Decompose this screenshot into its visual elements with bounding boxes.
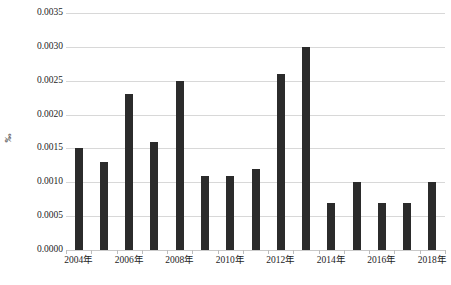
bar [277, 74, 285, 250]
y-axis-tick-labels: 0.00000.00050.00100.00150.00200.00250.00… [14, 0, 66, 285]
x-axis-tick [117, 250, 118, 254]
bar [201, 176, 209, 250]
x-axis-tick [344, 250, 345, 254]
bar [150, 142, 158, 250]
bar [327, 203, 335, 250]
bar [428, 182, 436, 250]
bars-layer [66, 13, 445, 250]
x-axis-tick [445, 250, 446, 254]
x-axis-tick [319, 250, 320, 254]
x-axis-tick [420, 250, 421, 254]
bar [125, 94, 133, 250]
bar [226, 176, 234, 250]
bar [403, 203, 411, 250]
y-axis-tick-label: 0.0010 [37, 178, 63, 188]
x-axis-tick [218, 250, 219, 254]
x-axis-tick [91, 250, 92, 254]
x-axis-tick-label: 2014年 [317, 256, 346, 266]
bar [100, 162, 108, 250]
y-axis-tick-label: 0.0005 [37, 211, 63, 221]
bar [252, 169, 260, 250]
bar [75, 148, 83, 250]
caption-remnant [96, 273, 366, 283]
bar [378, 203, 386, 250]
x-axis-tick [243, 250, 244, 254]
y-axis-tick-label: 0.0025 [37, 76, 63, 86]
x-axis-tick-label: 2006年 [115, 256, 144, 266]
x-axis-tick [394, 250, 395, 254]
y-axis-tick-label: 0.0000 [37, 245, 63, 255]
bar [176, 81, 184, 250]
x-axis-tick-label: 2018年 [418, 256, 447, 266]
bar [353, 182, 361, 250]
x-axis-tick [293, 250, 294, 254]
x-axis-tick [66, 250, 67, 254]
y-axis-tick-label: 0.0020 [37, 110, 63, 120]
x-axis-tick-label: 2016年 [367, 256, 396, 266]
bar-chart-figure: ‰ 0.00000.00050.00100.00150.00200.00250.… [0, 0, 451, 285]
x-axis-tick [369, 250, 370, 254]
x-axis-tick-label: 2010年 [216, 256, 245, 266]
x-axis-tick [192, 250, 193, 254]
x-axis-tick [142, 250, 143, 254]
plot-area [66, 13, 445, 250]
x-axis-tick [167, 250, 168, 254]
x-axis-tick-label: 2004年 [64, 256, 93, 266]
y-axis-tick-label: 0.0015 [37, 144, 63, 154]
y-axis-tick-label: 0.0035 [37, 8, 63, 18]
x-axis-tick-label: 2008年 [165, 256, 194, 266]
y-axis-tick-label: 0.0030 [37, 42, 63, 52]
x-axis-tick [268, 250, 269, 254]
x-axis-tick-label: 2012年 [266, 256, 295, 266]
bar [302, 47, 310, 250]
